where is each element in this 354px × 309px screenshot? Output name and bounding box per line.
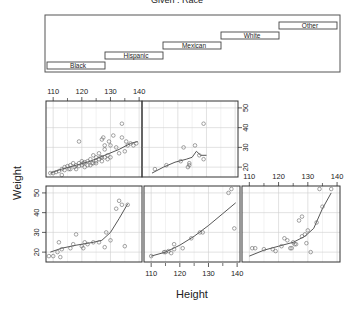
data-point (117, 199, 121, 203)
svg-text:130: 130 (302, 172, 315, 181)
data-point (57, 241, 61, 245)
data-point (181, 246, 185, 250)
data-point (297, 219, 301, 223)
svg-text:140: 140 (231, 269, 244, 278)
svg-text:30: 30 (32, 228, 41, 236)
svg-text:Other: Other (302, 22, 319, 29)
svg-text:130: 130 (202, 269, 215, 278)
svg-text:50: 50 (32, 189, 41, 197)
data-point (172, 242, 176, 246)
data-point (100, 159, 104, 163)
data-point (89, 157, 93, 161)
data-point (193, 144, 197, 148)
svg-text:50: 50 (241, 104, 250, 112)
axes: 1101201301401101201301401101201301402030… (32, 87, 343, 278)
svg-text:110: 110 (47, 87, 59, 96)
shingle-bar-other: Other (279, 22, 337, 29)
data-point (103, 144, 107, 148)
data-point (69, 246, 73, 250)
data-point (60, 173, 64, 177)
svg-text:40: 40 (32, 208, 41, 216)
panel-hispanic (144, 186, 240, 262)
data-point (233, 227, 237, 231)
shingle-bar-white: White (221, 32, 279, 39)
y-axis-label: Weight (11, 166, 23, 200)
data-point (77, 140, 81, 144)
data-point (329, 187, 333, 191)
svg-text:140: 140 (133, 87, 146, 96)
data-point (120, 122, 124, 126)
svg-text:Mexican: Mexican (182, 42, 207, 49)
data-point (300, 215, 304, 219)
scatter-panels: 1101201301401101201301401101201301402030… (32, 87, 343, 278)
data-point (120, 136, 124, 140)
data-point (114, 207, 118, 211)
chart-title: Given : Race (151, 0, 203, 5)
data-point (202, 157, 206, 161)
data-point (117, 152, 121, 156)
data-point (59, 255, 63, 259)
svg-text:120: 120 (272, 172, 285, 181)
data-point (286, 239, 290, 243)
data-point (97, 152, 101, 156)
data-point (103, 148, 107, 152)
svg-text:130: 130 (104, 87, 117, 96)
svg-text:140: 140 (331, 172, 344, 181)
svg-text:Hispanic: Hispanic (124, 52, 150, 60)
data-point (112, 134, 116, 138)
panel-other (142, 101, 238, 177)
shingle-bar-black: Black (47, 62, 105, 69)
data-point (74, 233, 78, 237)
data-point (120, 203, 124, 207)
panel-white (46, 101, 142, 177)
svg-text:120: 120 (76, 87, 89, 96)
svg-text:110: 110 (243, 172, 255, 181)
data-point (103, 245, 107, 249)
panel-black (46, 186, 142, 262)
data-point (230, 187, 234, 191)
svg-text:30: 30 (241, 143, 250, 151)
svg-text:110: 110 (145, 269, 157, 278)
data-point (318, 187, 322, 191)
svg-text:20: 20 (32, 248, 41, 256)
data-point (202, 122, 206, 126)
given-race-panel: BlackHispanicMexicanWhiteOther (45, 15, 340, 72)
panel-mexican (242, 186, 340, 262)
coplot-chart: Given : Race BlackHispanicMexicanWhiteOt… (0, 0, 354, 309)
x-axis-label: Height (176, 288, 208, 300)
data-point (303, 233, 307, 237)
shingle-bar-mexican: Mexican (163, 42, 221, 49)
shingle-bar-hispanic: Hispanic (105, 52, 163, 60)
svg-text:120: 120 (174, 269, 187, 278)
svg-text:White: White (244, 32, 261, 39)
data-point (47, 254, 51, 258)
data-point (126, 203, 130, 207)
data-point (153, 167, 157, 171)
svg-text:Black: Black (70, 62, 87, 69)
svg-text:40: 40 (241, 123, 250, 131)
svg-text:20: 20 (241, 163, 250, 171)
